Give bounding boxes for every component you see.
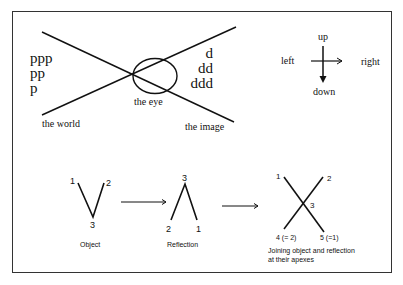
- joined-caption-line2: at their apexes: [268, 255, 355, 264]
- object-shape: [78, 183, 104, 217]
- object-label-1: 1: [70, 176, 75, 186]
- reflection-label-3: 3: [182, 173, 187, 183]
- joined-label-1: 1: [276, 172, 280, 181]
- object-caption: Object: [80, 241, 100, 248]
- direction-cross: [311, 46, 342, 83]
- eye-label: the eye: [134, 96, 163, 107]
- image-letters-row: dd: [185, 61, 213, 76]
- reflection-label-1: 1: [196, 224, 201, 234]
- world-letters-row: pp: [30, 66, 53, 81]
- joined-label-3: 3: [310, 201, 314, 210]
- image-letters-row: d: [185, 46, 213, 61]
- world-letters-row: ppp: [30, 51, 53, 66]
- up-label: up: [318, 31, 328, 42]
- diagram-graphics: [0, 0, 403, 285]
- reflection-label-2: 2: [166, 224, 171, 234]
- image-label: the image: [185, 121, 224, 132]
- down-arrowhead-icon: [320, 76, 327, 83]
- object-label-2: 2: [106, 178, 111, 188]
- world-letters: ppp pp p: [30, 51, 53, 96]
- left-label: left: [281, 55, 294, 66]
- joined-caption: Joining object and reflection at their a…: [268, 246, 355, 264]
- down-label: down: [313, 86, 335, 97]
- reflection-shape: [171, 184, 197, 220]
- arrow-reflection-to-joined: [222, 204, 258, 209]
- image-letters-row: ddd: [185, 76, 213, 91]
- joined-label-4: 4 (= 2): [276, 234, 296, 241]
- image-letters: d dd ddd: [185, 46, 213, 91]
- diagram-canvas: ppp pp p d dd ddd the eye the world the …: [0, 0, 403, 285]
- joined-shape: [284, 177, 324, 232]
- object-label-3: 3: [90, 220, 95, 230]
- reflection-caption: Reflection: [167, 241, 198, 248]
- joined-caption-line1: Joining object and reflection: [268, 246, 355, 255]
- world-label: the world: [42, 118, 80, 129]
- joined-label-2: 2: [327, 174, 331, 183]
- right-label: right: [361, 56, 380, 67]
- joined-label-5: 5 (=1): [320, 234, 338, 241]
- world-letters-row: p: [30, 81, 53, 96]
- arrow-object-to-reflection: [121, 200, 166, 205]
